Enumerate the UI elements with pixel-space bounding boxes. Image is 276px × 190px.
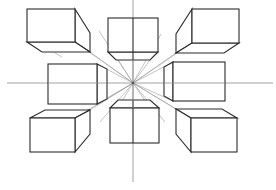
- box-middle-left: [48, 64, 107, 104]
- box-bottom-left: [30, 110, 90, 152]
- box-top-center: [108, 18, 158, 60]
- box-bottom-right: [176, 109, 237, 152]
- perspective-diagram: [0, 0, 276, 190]
- box-top-left: [27, 9, 90, 52]
- diagram-canvas: [0, 0, 276, 190]
- box-middle-right: [164, 62, 225, 101]
- box-bottom-center: [110, 100, 159, 143]
- box-top-right: [176, 9, 239, 53]
